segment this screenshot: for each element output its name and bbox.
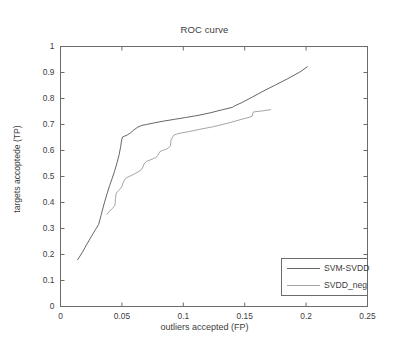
y-tick-label: 0: [17, 301, 55, 311]
y-tick-label: 0.4: [17, 197, 55, 207]
y-tick-label: 0.2: [17, 249, 55, 259]
legend-item-svdd-neg[interactable]: SVDD_neg: [324, 280, 367, 290]
y-tick-label: 0.9: [17, 67, 55, 77]
plot-area: [0, 0, 409, 343]
y-tick-label: 0.3: [17, 223, 55, 233]
x-axis-label: outliers accepted (FP): [0, 322, 409, 332]
y-tick-label: 0.1: [17, 275, 55, 285]
x-tick-label: 0.2: [286, 311, 326, 321]
series-line-svm-svdd: [78, 67, 308, 260]
roc-curve-figure: ROC curve outliers accepted (FP) targets…: [0, 0, 409, 343]
x-tick-label: 0.25: [348, 311, 388, 321]
y-tick-label: 0.6: [17, 145, 55, 155]
x-tick-label: 0.1: [163, 311, 203, 321]
y-tick-label: 0.8: [17, 93, 55, 103]
x-tick-label: 0.15: [225, 311, 265, 321]
x-tick-label: 0.05: [102, 311, 142, 321]
y-tick-label: 0.7: [17, 119, 55, 129]
x-tick-label: 0: [41, 311, 81, 321]
series-line-svdd-neg: [107, 110, 270, 215]
data-series: [78, 67, 308, 260]
y-tick-label: 0.5: [17, 171, 55, 181]
legend-item-svm-svdd[interactable]: SVM-SVDD: [324, 263, 369, 273]
y-tick-label: 1: [17, 41, 55, 51]
